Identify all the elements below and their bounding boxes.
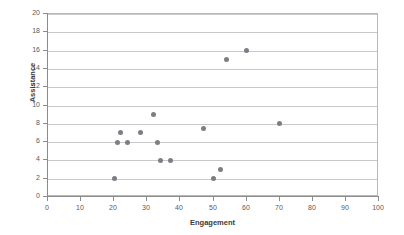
- data-point: [118, 130, 123, 135]
- x-axis-tick: [113, 197, 114, 201]
- y-axis-tick: [43, 159, 47, 160]
- y-axis-tick-label: 0: [18, 192, 40, 200]
- x-axis-tick-label: 20: [101, 203, 125, 212]
- y-axis-tick: [43, 50, 47, 51]
- y-axis-line: [47, 13, 48, 197]
- y-axis-tick: [43, 68, 47, 69]
- y-axis-tick-label: 6: [18, 137, 40, 145]
- x-axis-tick: [378, 197, 379, 201]
- scatter-chart: 02468101214161820 0102030405060708090100…: [0, 0, 404, 235]
- data-point: [201, 126, 206, 131]
- x-axis-tick: [47, 197, 48, 201]
- y-axis-tick: [43, 31, 47, 32]
- x-axis-tick: [246, 197, 247, 201]
- y-axis-tick-label: 8: [18, 119, 40, 127]
- x-axis-tick-label: 40: [167, 203, 191, 212]
- y-axis-tick: [43, 105, 47, 106]
- x-axis-tick-label: 100: [366, 203, 390, 212]
- data-point: [244, 48, 249, 53]
- x-axis-tick-label: 80: [300, 203, 324, 212]
- x-axis-tick: [312, 197, 313, 201]
- y-axis-tick: [43, 178, 47, 179]
- data-point: [211, 176, 216, 181]
- x-axis-tick: [146, 197, 147, 201]
- data-point: [151, 112, 156, 117]
- x-axis-tick-label: 60: [234, 203, 258, 212]
- data-point: [112, 176, 117, 181]
- y-axis-tick: [43, 86, 47, 87]
- x-axis-tick: [345, 197, 346, 201]
- data-point: [155, 140, 160, 145]
- y-axis-tick: [43, 141, 47, 142]
- data-point: [125, 140, 130, 145]
- data-point: [115, 140, 120, 145]
- y-axis-tick: [43, 13, 47, 14]
- data-point: [277, 121, 282, 126]
- x-axis-tick-label: 10: [68, 203, 92, 212]
- y-axis-tick: [43, 123, 47, 124]
- x-axis-tick: [80, 197, 81, 201]
- data-point: [218, 167, 223, 172]
- x-axis-tick: [279, 197, 280, 201]
- data-points-layer: [48, 14, 377, 195]
- x-axis-tick-label: 30: [134, 203, 158, 212]
- data-point: [168, 158, 173, 163]
- plot-area: [47, 13, 378, 196]
- x-axis-tick: [213, 197, 214, 201]
- y-axis-tick-label: 2: [18, 174, 40, 182]
- data-point: [158, 158, 163, 163]
- y-axis-tick-label: 4: [18, 155, 40, 163]
- x-axis-tick: [179, 197, 180, 201]
- y-axis-title: Assistance: [28, 53, 37, 113]
- x-axis-title: Engagement: [47, 218, 378, 227]
- data-point: [138, 130, 143, 135]
- y-axis-tick-label: 20: [18, 9, 40, 17]
- x-axis-tick-label: 90: [333, 203, 357, 212]
- x-axis-tick-label: 0: [35, 203, 59, 212]
- x-axis-tick-label: 70: [267, 203, 291, 212]
- x-axis-tick-label: 50: [201, 203, 225, 212]
- data-point: [224, 57, 229, 62]
- y-axis-tick-label: 18: [18, 27, 40, 35]
